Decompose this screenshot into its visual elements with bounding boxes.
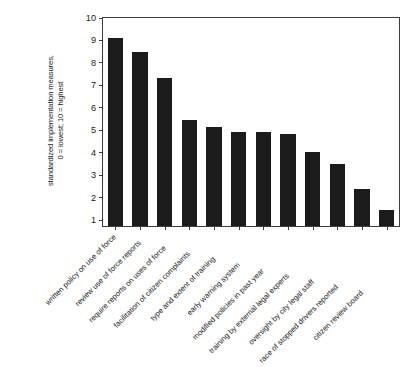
plot-area: 10987654321 <box>102 17 400 227</box>
y-axis-tick: 9 <box>80 35 103 45</box>
y-axis-tick-label: 9 <box>80 35 99 45</box>
y-axis-tick-label: 2 <box>80 193 99 203</box>
y-axis-tick-label: 8 <box>80 58 99 68</box>
bar <box>330 164 345 226</box>
y-axis-tick-label: 4 <box>80 148 99 158</box>
y-axis-title: standardized implementation measures, 0 … <box>46 15 65 226</box>
y-axis-tick: 6 <box>80 103 103 113</box>
bar <box>379 210 394 226</box>
bar <box>256 132 271 226</box>
y-axis-tick: 2 <box>80 193 103 203</box>
bar <box>108 38 123 226</box>
y-axis-tick-label: 1 <box>80 215 99 225</box>
y-axis-tick-label: 7 <box>80 80 99 90</box>
y-axis-tick-label: 10 <box>80 13 99 23</box>
bar <box>280 134 295 226</box>
y-axis-tick-label: 3 <box>80 170 99 180</box>
y-axis-tick: 3 <box>80 170 103 180</box>
bars-group <box>103 18 399 226</box>
bar <box>354 189 369 226</box>
bar <box>132 52 147 226</box>
y-axis-tick: 4 <box>80 148 103 158</box>
bar <box>231 132 246 226</box>
y-axis-tick: 1 <box>80 215 103 225</box>
bar <box>182 120 197 226</box>
bar <box>206 127 221 226</box>
y-axis-tick: 10 <box>80 13 103 23</box>
y-axis-tick: 7 <box>80 80 103 90</box>
bar <box>305 152 320 226</box>
bar <box>157 78 172 226</box>
y-axis-tick-label: 6 <box>80 103 99 113</box>
y-axis-tick-label: 5 <box>80 125 99 135</box>
y-axis-tick: 5 <box>80 125 103 135</box>
y-axis-tick: 8 <box>80 58 103 68</box>
x-axis-category-labels: written policy on use of forcereview use… <box>0 228 413 330</box>
